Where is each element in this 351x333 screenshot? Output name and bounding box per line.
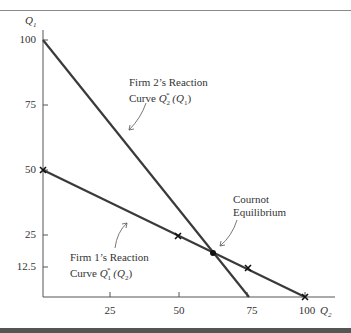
firm1-annotation-line1: Firm 1’s Reaction [70, 251, 149, 264]
y-tick-12-5: 12.5 [0, 260, 36, 273]
x-tick-100: 100 [292, 304, 322, 317]
x-tick-25: 25 [95, 304, 125, 317]
x-tick-50: 50 [164, 304, 194, 317]
y-tick-25: 25 [0, 228, 36, 241]
y-tick-100: 100 [0, 33, 36, 46]
annotation-arrows [115, 103, 237, 248]
chart-plot [0, 0, 351, 333]
firm2-annotation-line1: Firm 2’s Reaction [129, 76, 208, 89]
x-ticks [110, 292, 305, 297]
firm1-annotation: Firm 1’s Reaction Curve Q1* (Q2) [70, 251, 149, 285]
firm2-annotation: Firm 2’s Reaction Curve Q2* (Q1) [129, 76, 208, 110]
bottom-divider [0, 328, 351, 333]
y-tick-50: 50 [0, 163, 36, 176]
y-axis-label: Q1 [25, 14, 36, 32]
cournot-annotation-line1: Cournot [233, 193, 286, 206]
y-ticks [43, 40, 48, 267]
x-tick-75: 75 [237, 304, 267, 317]
firm1-annotation-line2: Curve Q1* (Q2) [70, 264, 149, 285]
cournot-annotation-line2: Equilibrium [233, 206, 286, 219]
firm2-annotation-line2: Curve Q2* (Q1) [129, 89, 208, 110]
cournot-equilibrium-point [210, 250, 216, 256]
cournot-annotation: Cournot Equilibrium [233, 193, 286, 219]
y-tick-75: 75 [0, 98, 36, 111]
